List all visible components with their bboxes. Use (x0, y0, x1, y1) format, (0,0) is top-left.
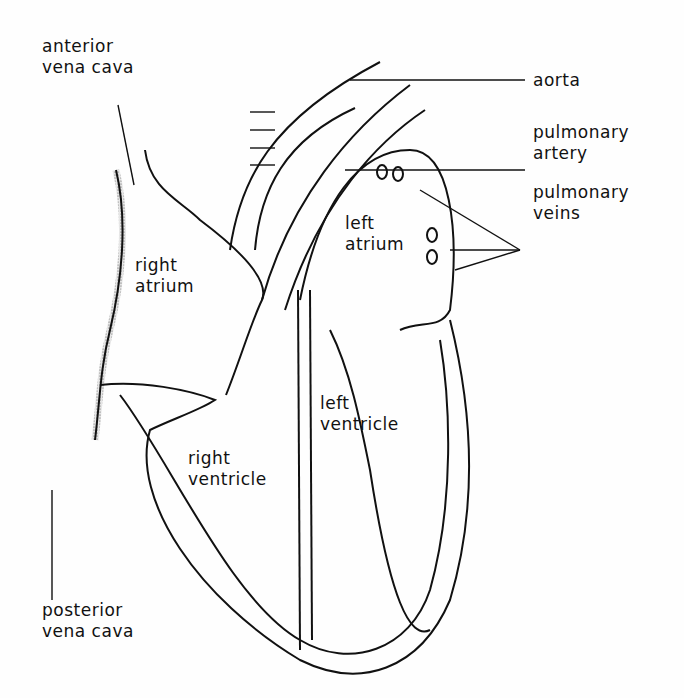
label-right-atrium: right atrium (135, 255, 194, 297)
heart-drawing (0, 0, 684, 698)
label-aorta: aorta (533, 70, 580, 91)
label-pulmonary-veins: pulmonary veins (533, 182, 629, 224)
label-left-ventricle: left ventricle (320, 393, 399, 435)
heart-diagram: anterior vena cava aorta pulmonary arter… (0, 0, 684, 698)
label-pulmonary-artery: pulmonary artery (533, 122, 629, 164)
label-anterior-vena-cava: anterior vena cava (42, 36, 134, 78)
label-posterior-vena-cava: posterior vena cava (42, 600, 134, 642)
label-right-ventricle: right ventricle (188, 448, 267, 490)
label-left-atrium: left atrium (345, 213, 404, 255)
